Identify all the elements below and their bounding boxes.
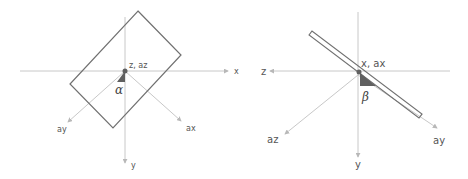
z-label: z — [261, 66, 266, 77]
az-axis-right — [285, 75, 358, 134]
x-label: x — [234, 67, 239, 76]
ay-label-right: ay — [433, 135, 445, 146]
origin-label-right: x, ax — [361, 58, 385, 69]
rotated-bar — [309, 31, 422, 118]
beta-label: β — [361, 90, 369, 104]
right-panel: x, ax z y ay az β — [261, 12, 450, 170]
ax-label: ax — [186, 124, 196, 133]
y-label-right: y — [355, 159, 361, 170]
az-label-right: az — [267, 134, 278, 145]
alpha-label: α — [115, 83, 123, 97]
rotation-diagram: z, az x y ax ay α x, ax z y ay az β — [0, 0, 468, 179]
origin-point-right — [357, 70, 362, 75]
left-panel: z, az x y ax ay α — [20, 11, 239, 170]
ax-axis — [125, 71, 181, 121]
ay-label: ay — [57, 125, 67, 134]
origin-point — [123, 69, 128, 74]
origin-label: z, az — [129, 61, 147, 70]
y-label: y — [131, 161, 136, 170]
